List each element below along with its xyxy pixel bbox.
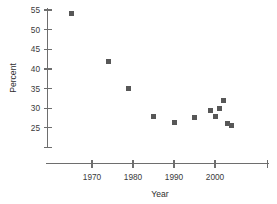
data-point-marker — [217, 106, 222, 111]
x-tick-label: 1970 — [83, 172, 102, 182]
y-axis: 25303540455055 — [31, 5, 52, 148]
x-tick-label: 1990 — [165, 172, 184, 182]
data-point-marker — [126, 86, 131, 91]
y-tick-label: 35 — [31, 84, 41, 94]
y-tick-label: 40 — [31, 64, 41, 74]
data-point-marker — [151, 114, 156, 119]
data-point-marker — [192, 115, 197, 120]
scatter-chart: 25303540455055 1970198019902000 Percent … — [0, 0, 277, 204]
chart-canvas: 25303540455055 1970198019902000 Percent … — [0, 0, 277, 204]
x-axis: 1970198019902000 — [46, 160, 269, 183]
data-point-marker — [106, 59, 111, 64]
y-tick-label: 30 — [31, 103, 41, 113]
y-axis-ticks: 25303540455055 — [31, 5, 52, 148]
data-point-marker — [229, 123, 234, 128]
data-points — [69, 11, 234, 128]
data-point-marker — [172, 120, 177, 125]
y-tick-label: 45 — [31, 44, 41, 54]
x-axis-title: Year — [151, 189, 169, 199]
x-tick-label: 2000 — [206, 172, 225, 182]
y-axis-title: Percent — [8, 63, 18, 93]
data-point-marker — [221, 98, 226, 103]
data-point-marker — [69, 11, 74, 16]
y-tick-label: 25 — [31, 123, 41, 133]
data-point-marker — [208, 108, 213, 113]
y-tick-label: 55 — [31, 5, 41, 15]
y-tick-label: 50 — [31, 25, 41, 35]
x-axis-ticks: 1970198019902000 — [83, 160, 268, 183]
data-point-marker — [213, 114, 218, 119]
x-tick-label: 1980 — [124, 172, 143, 182]
